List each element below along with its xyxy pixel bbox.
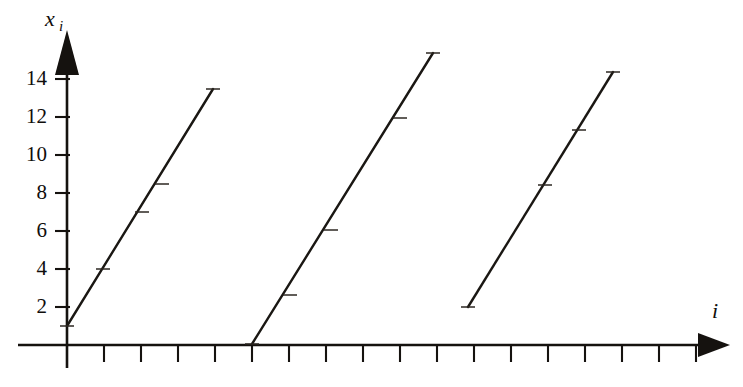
axis-titles: x i i [44,6,718,323]
y-axis-title: x [44,6,55,31]
ramp-3-line [468,72,613,307]
axis-group [18,30,730,368]
ramp-2-line [252,53,433,344]
y-tick-labels: 2 4 6 8 10 12 14 [26,66,48,318]
y-tick-label-10: 10 [26,142,47,166]
y-tick-label-4: 4 [37,256,48,280]
y-axis-title-subscript: i [59,18,63,34]
data-series-ramp-3 [461,72,620,307]
y-tick-label-14: 14 [26,66,48,90]
plot-canvas: 2 4 6 8 10 12 14 x i i [0,0,743,387]
data-series-ramp-2 [245,53,440,344]
x-tick-group [104,345,696,362]
data-series-ramp-1 [60,89,220,326]
ramp-1-line [67,89,213,326]
chart-figure: 2 4 6 8 10 12 14 x i i [0,0,743,387]
y-tick-label-6: 6 [37,218,48,242]
y-tick-label-2: 2 [37,294,48,318]
y-axis-arrowhead-icon [55,30,79,75]
y-tick-label-12: 12 [26,104,47,128]
x-axis-arrowhead-icon [698,333,730,357]
y-tick-label-8: 8 [37,180,48,204]
x-axis-title: i [712,298,718,323]
